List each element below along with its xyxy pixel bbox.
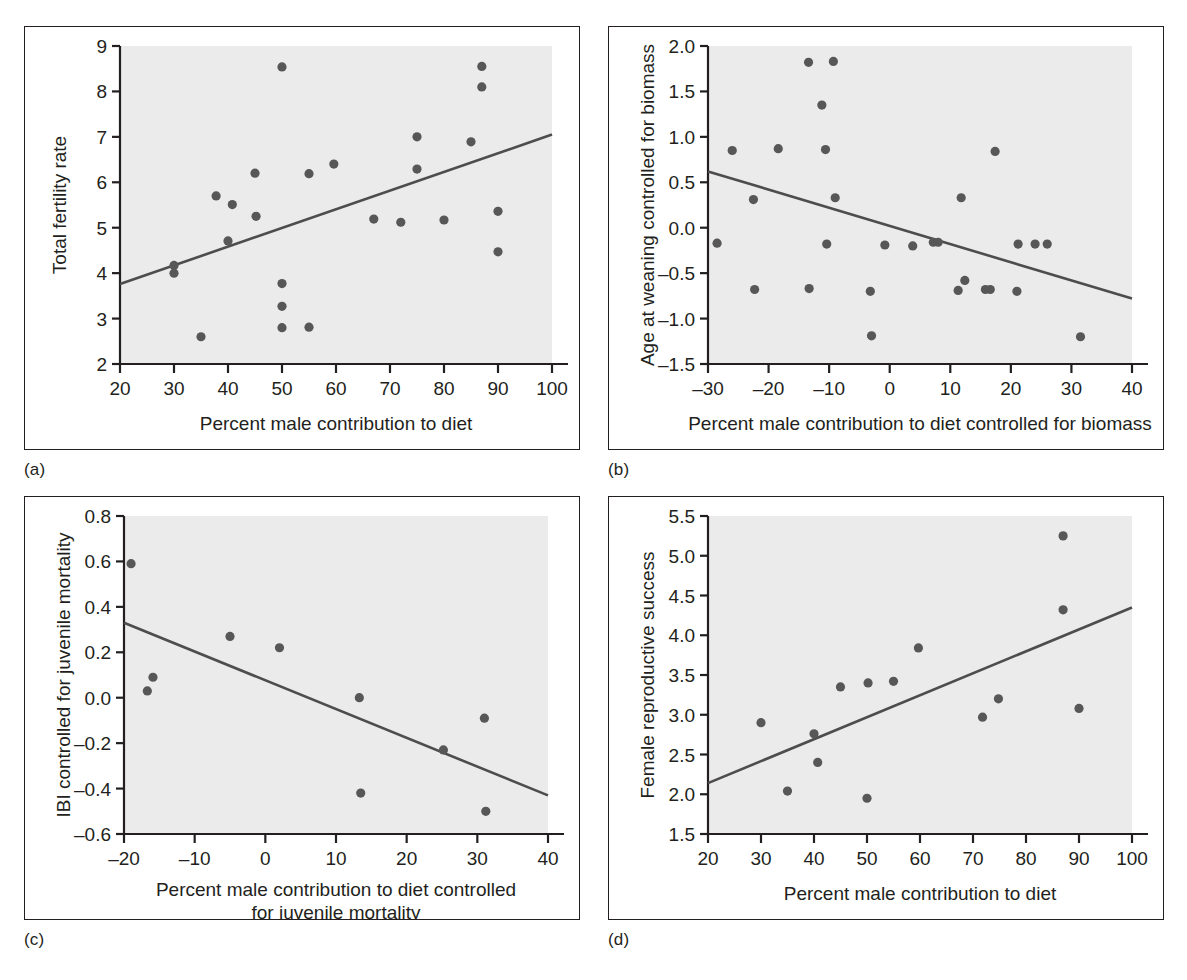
data-point (934, 238, 943, 247)
data-point (493, 207, 502, 216)
data-point (126, 559, 135, 568)
x-tick-label: –20 (753, 378, 785, 399)
panel-a-caption: (a) (24, 460, 45, 480)
x-tick-label: 0 (260, 848, 271, 869)
x-tick-label: 30 (1061, 378, 1082, 399)
data-point (829, 57, 838, 66)
data-point (756, 718, 765, 727)
x-tick-label: 70 (379, 378, 400, 399)
data-point (251, 212, 260, 221)
data-point (228, 200, 237, 209)
data-point (1030, 239, 1039, 248)
data-point (805, 284, 814, 293)
data-point (439, 215, 448, 224)
x-axis-title: Percent male contribution to diet (200, 413, 473, 434)
y-tick-label: –0.6 (74, 824, 111, 845)
data-point (396, 218, 405, 227)
data-point (480, 714, 489, 723)
data-point (223, 236, 232, 245)
data-point (783, 786, 792, 795)
data-point (1076, 332, 1085, 341)
data-point (866, 287, 875, 296)
panel-a-plot: 234567892030405060708090100Total fertili… (24, 26, 580, 450)
data-point (978, 713, 987, 722)
data-point (749, 195, 758, 204)
x-tick-label: –10 (813, 378, 845, 399)
data-point (1059, 605, 1068, 614)
x-tick-label: 70 (962, 848, 983, 869)
y-tick-label: 8 (96, 81, 107, 102)
data-point (356, 789, 365, 798)
panel-c-plot: –0.6–0.4–0.20.00.20.40.60.8–20–100102030… (24, 496, 580, 920)
y-tick-label: 2.0 (669, 36, 695, 57)
y-tick-label: 3.5 (669, 665, 695, 686)
data-point (277, 279, 286, 288)
x-axis-title-line2: for juvenile mortality (252, 902, 421, 920)
data-point (822, 239, 831, 248)
y-tick-label: 2 (96, 354, 107, 375)
panel-d-caption: (d) (608, 930, 629, 950)
data-point (867, 331, 876, 340)
data-point (250, 169, 259, 178)
y-tick-label: 9 (96, 36, 107, 57)
x-tick-label: 30 (163, 378, 184, 399)
data-point (836, 682, 845, 691)
x-tick-label: 60 (909, 848, 930, 869)
y-axis-title: Age at weaning controlled for biomass (637, 44, 658, 366)
data-point (277, 62, 286, 71)
y-tick-label: 6 (96, 172, 107, 193)
data-point (986, 285, 995, 294)
x-tick-group: 2030405060708090100 (697, 834, 1147, 869)
data-point (960, 276, 969, 285)
data-point (412, 165, 421, 174)
x-tick-group: –20–10010203040 (108, 834, 558, 869)
data-point (355, 693, 364, 702)
data-point (809, 729, 818, 738)
x-tick-label: 10 (940, 378, 961, 399)
data-point (821, 145, 830, 154)
data-point (212, 191, 221, 200)
x-axis-title: Percent male contribution to diet contro… (688, 413, 1152, 434)
y-tick-label: 0.0 (85, 688, 111, 709)
y-tick-label: 0.6 (85, 551, 111, 572)
figure-container: 234567892030405060708090100Total fertili… (0, 0, 1187, 980)
x-tick-label: 10 (325, 848, 346, 869)
x-tick-label: 30 (750, 848, 771, 869)
y-tick-label: 5.0 (669, 546, 695, 567)
data-point (277, 323, 286, 332)
x-tick-label: 30 (467, 848, 488, 869)
data-point (889, 677, 898, 686)
y-tick-label: 1.5 (669, 81, 695, 102)
data-point (804, 58, 813, 67)
data-point (275, 643, 284, 652)
x-axis-title: Percent male contribution to diet (784, 883, 1057, 904)
data-point (1074, 704, 1083, 713)
x-tick-label: 80 (433, 378, 454, 399)
y-axis-title: Female reproductive success (637, 551, 658, 798)
y-tick-group: –1.5–1.0–0.50.00.51.01.52.0 (658, 36, 708, 375)
plot-background (124, 516, 548, 834)
y-tick-label: 2.0 (669, 784, 695, 805)
panel-c-caption: (c) (24, 930, 44, 950)
data-point (225, 632, 234, 641)
data-point (831, 193, 840, 202)
x-tick-label: 20 (697, 848, 718, 869)
y-tick-label: 1.5 (669, 824, 695, 845)
x-tick-label: 40 (537, 848, 558, 869)
data-point (712, 239, 721, 248)
data-point (774, 144, 783, 153)
x-tick-label: 0 (884, 378, 895, 399)
data-point (477, 62, 486, 71)
data-point (817, 100, 826, 109)
panel-b: –1.5–1.0–0.50.00.51.01.52.0–30–20–100102… (608, 26, 1164, 450)
x-tick-label: 50 (271, 378, 292, 399)
data-point (466, 137, 475, 146)
x-tick-label: –10 (179, 848, 211, 869)
y-tick-label: 0.5 (669, 172, 695, 193)
y-axis-title: IBI controlled for juvenile mortality (53, 532, 74, 818)
y-tick-label: 0.4 (85, 597, 112, 618)
data-point (813, 758, 822, 767)
x-tick-group: –30–20–10010203040 (692, 364, 1142, 399)
x-tick-label: –30 (692, 378, 724, 399)
x-tick-label: –20 (108, 848, 140, 869)
